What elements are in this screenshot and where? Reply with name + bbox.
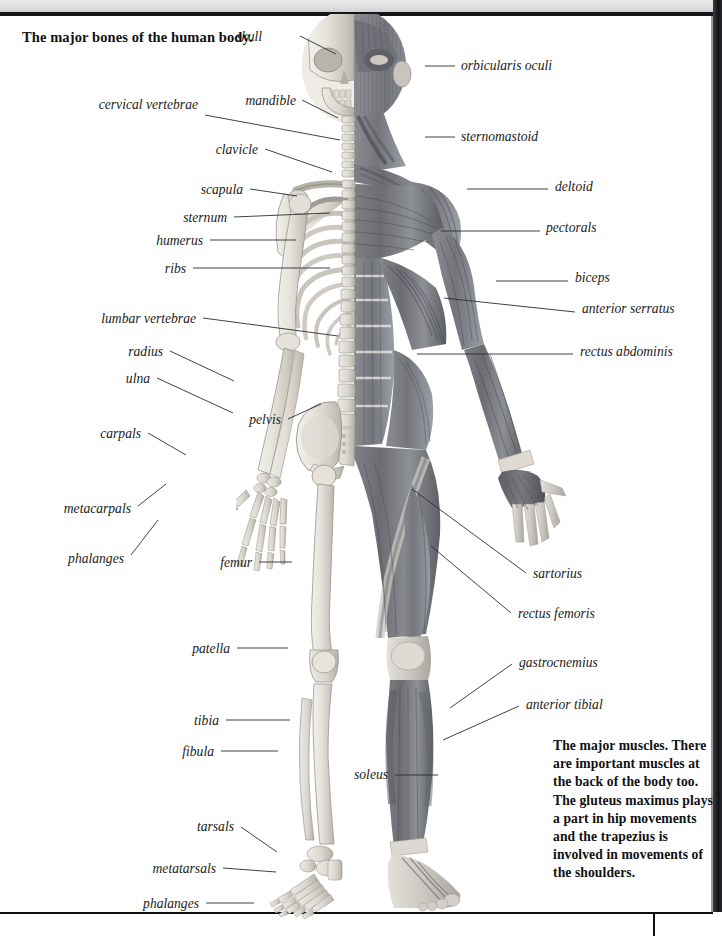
bone-label-ulna: ulna xyxy=(126,371,150,386)
bone-label-patella: patella xyxy=(192,641,230,656)
bone-label-metatarsals: metatarsals xyxy=(153,861,216,876)
bone-label-clavicle: clavicle xyxy=(216,142,258,157)
muscle-label-biceps: biceps xyxy=(575,270,610,285)
bone-label-femur: femur xyxy=(220,555,252,570)
bone-label-phalanges-foot: phalanges xyxy=(143,896,199,911)
muscle-label-rectus-femoris: rectus femoris xyxy=(518,606,595,621)
muscle-label-anterior-serratus: anterior serratus xyxy=(582,301,675,316)
bone-label-scapula: scapula xyxy=(201,182,243,197)
bone-label-cervical-vertebrae: cervical vertebrae xyxy=(78,97,198,113)
bone-label-phalanges-hand: phalanges xyxy=(68,551,124,566)
anatomy-artwork xyxy=(236,14,566,924)
bone-label-ribs: ribs xyxy=(165,261,186,276)
caption-major-muscles: The major muscles. There are important m… xyxy=(553,737,713,883)
bone-label-pelvis: pelvis xyxy=(249,412,281,427)
muscle-label-pectorals: pectorals xyxy=(546,220,597,235)
bone-label-sternum: sternum xyxy=(183,210,227,225)
caption-major-bones: The major bones of the human body. xyxy=(22,28,257,47)
muscle-label-deltoid: deltoid xyxy=(555,179,593,194)
muscle-label-soleus: soleus xyxy=(354,767,388,782)
bone-label-radius: radius xyxy=(128,344,163,359)
bone-label-tibia: tibia xyxy=(194,713,219,728)
page-root: The major bones of the human body. The m… xyxy=(0,0,722,936)
muscle-label-sartorius: sartorius xyxy=(533,566,582,581)
bone-label-metacarpals: metacarpals xyxy=(64,501,131,516)
muscle-label-orbicularis-oculi: orbicularis oculi xyxy=(461,58,552,73)
bone-label-carpals: carpals xyxy=(100,426,141,441)
muscle-label-anterior-tibial: anterior tibial xyxy=(526,697,603,712)
muscle-label-rectus-abdominis: rectus abdominis xyxy=(580,344,673,359)
bone-label-fibula: fibula xyxy=(182,744,214,759)
bone-label-mandible: mandible xyxy=(245,93,296,108)
bone-label-humerus: humerus xyxy=(156,233,203,248)
bone-label-lumbar-vertebrae: lumbar vertebrae xyxy=(101,311,196,326)
bone-label-skull: skull xyxy=(236,29,262,44)
bone-label-tarsals: tarsals xyxy=(197,819,234,834)
muscle-label-sternomastoid: sternomastoid xyxy=(461,129,538,144)
muscle-label-gastrocnemius: gastrocnemius xyxy=(519,655,598,670)
